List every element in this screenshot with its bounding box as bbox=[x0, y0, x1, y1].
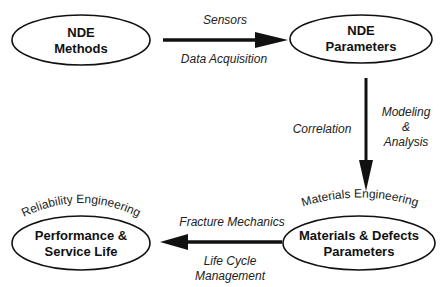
ellipse-shape bbox=[12, 15, 150, 65]
node-label-line1: Performance & bbox=[35, 228, 127, 243]
edge-label-modeling: Modeling bbox=[382, 105, 431, 119]
node-label-line1: NDE bbox=[67, 25, 95, 40]
node-label-line2: Parameters bbox=[326, 39, 397, 54]
edge-label-correlation: Correlation bbox=[293, 122, 352, 136]
edge-label-data-acquisition: Data Acquisition bbox=[181, 52, 268, 66]
edge-label-life-cycle: Life Cycle bbox=[204, 254, 257, 268]
ellipse-shape bbox=[12, 216, 150, 270]
node-nde-parameters: NDE Parameters bbox=[290, 15, 432, 63]
edge-parameters-to-materials: Correlation Modeling & Analysis bbox=[293, 78, 431, 191]
node-label-line2: Methods bbox=[54, 41, 107, 56]
edge-label-management: Management bbox=[195, 269, 266, 283]
node-nde-methods: NDE Methods bbox=[12, 15, 150, 65]
node-materials-defects: Materials Engineering Materials & Defect… bbox=[283, 186, 435, 270]
arrowhead-down-icon bbox=[359, 160, 373, 191]
node-label-line2: Parameters bbox=[324, 244, 395, 259]
node-label-line1: Materials & Defects bbox=[299, 228, 419, 243]
edge-label-analysis: Analysis bbox=[383, 135, 429, 149]
edge-materials-to-performance: Fracture Mechanics Life Cycle Management bbox=[160, 215, 285, 283]
arrowhead-right-icon bbox=[255, 32, 288, 48]
edge-methods-to-parameters: Sensors Data Acquisition bbox=[163, 13, 288, 66]
node-label-line2: Service Life bbox=[45, 244, 118, 259]
arrowhead-left-icon bbox=[160, 234, 188, 250]
flow-diagram: NDE Methods NDE Parameters Materials Eng… bbox=[0, 0, 447, 287]
edge-label-fracture-mechanics: Fracture Mechanics bbox=[179, 215, 284, 229]
ellipse-shape bbox=[283, 216, 435, 270]
edge-label-ampersand: & bbox=[402, 120, 410, 134]
node-performance-service-life: Reliability Engineering Performance & Se… bbox=[12, 192, 150, 270]
arc-label-materials-engineering: Materials Engineering bbox=[300, 186, 421, 209]
edge-label-sensors: Sensors bbox=[203, 13, 247, 27]
node-label-line1: NDE bbox=[347, 23, 375, 38]
